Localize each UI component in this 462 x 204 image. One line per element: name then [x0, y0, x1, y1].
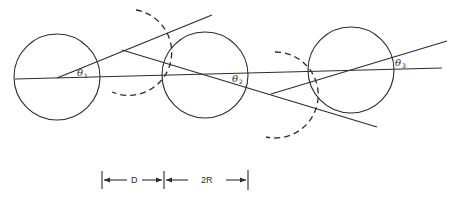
svg-text:3: 3 [402, 62, 406, 69]
ray-segment-2 [122, 50, 377, 127]
svg-text:θ: θ [77, 67, 83, 78]
svg-text:θ: θ [395, 57, 401, 68]
svg-text:2: 2 [239, 78, 243, 85]
d-arrow-left-head [104, 178, 110, 183]
theta-2-label: θ 2 [232, 73, 243, 85]
ray-segment-3 [271, 41, 447, 94]
r-arrow-right-head [240, 178, 246, 183]
sphere-chain-diagram: θ 1 θ 2 θ 3 D 2R [0, 0, 462, 204]
r-arrow-left-head [166, 178, 172, 183]
gap-label: D [131, 175, 138, 185]
svg-text:θ: θ [232, 73, 238, 84]
diameter-label: 2R [201, 175, 213, 185]
d-arrow-right-head [156, 178, 162, 183]
svg-text:1: 1 [84, 72, 88, 79]
theta-3-label: θ 3 [395, 57, 406, 69]
theta-1-label: θ 1 [77, 67, 88, 79]
dimension-markers: D 2R [102, 170, 248, 190]
dashed-arc-2 [266, 52, 318, 138]
